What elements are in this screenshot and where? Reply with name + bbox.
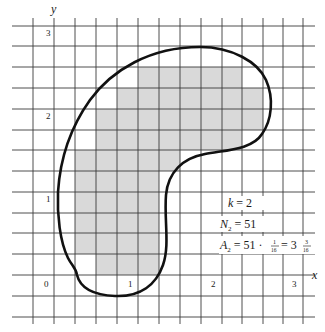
a-equation-mid: = 3 bbox=[281, 238, 297, 252]
shaded-cell-row bbox=[75, 150, 180, 171]
annotation-block: k = 2 N2= 51 A2= 51 · 1 16 = 3 3 16 bbox=[219, 196, 315, 254]
shaded-cell-row bbox=[96, 109, 263, 130]
shaded-cell-row bbox=[117, 88, 263, 109]
grid-lines bbox=[12, 18, 315, 324]
a-fraction-2-denominator: 16 bbox=[303, 247, 309, 253]
y-axis-label: y bbox=[50, 2, 57, 16]
y-tick-2: 2 bbox=[46, 111, 51, 121]
x-tick-3: 3 bbox=[292, 279, 297, 289]
area-approximation-diagram: y x 3 2 1 0 1 2 3 k = 2 N2= 51 A2= 51 · … bbox=[0, 0, 325, 332]
n-equation: N2= 51 bbox=[219, 217, 256, 233]
x-axis-label: x bbox=[311, 268, 318, 282]
a-fraction-2-numerator: 3 bbox=[305, 239, 308, 245]
a-fraction-1-denominator: 16 bbox=[271, 247, 277, 253]
x-tick-1: 1 bbox=[128, 279, 133, 289]
shaded-cell-row bbox=[96, 254, 159, 275]
y-tick-3: 3 bbox=[46, 28, 51, 38]
shaded-cell-row bbox=[138, 67, 242, 88]
shaded-cell-row bbox=[96, 130, 242, 150]
a-equation: A2= 51 · bbox=[219, 238, 263, 254]
x-tick-0: 0 bbox=[44, 279, 49, 289]
k-equation: k = 2 bbox=[228, 196, 252, 210]
x-tick-2: 2 bbox=[211, 279, 216, 289]
a-fraction-1-numerator: 1 bbox=[273, 239, 276, 245]
y-tick-1: 1 bbox=[46, 194, 51, 204]
